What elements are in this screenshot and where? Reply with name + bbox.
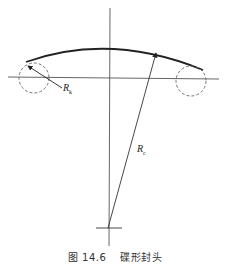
crown-radius-arrow <box>108 53 156 228</box>
right-knuckle-circle <box>176 66 206 96</box>
left-knuckle-circle <box>19 63 49 93</box>
torispherical-head-diagram <box>0 0 230 269</box>
caption-number: 图 14.6 <box>68 252 106 263</box>
knuckle-radius-label: Rk <box>63 82 72 95</box>
crown-arc <box>26 49 203 70</box>
vertical-axis <box>109 8 110 246</box>
crown-radius-label: Rc <box>137 143 146 156</box>
figure-caption: 图 14.6 碟形封头 <box>0 249 230 264</box>
caption-title: 碟形封头 <box>120 252 162 263</box>
horizontal-axis <box>8 77 219 79</box>
